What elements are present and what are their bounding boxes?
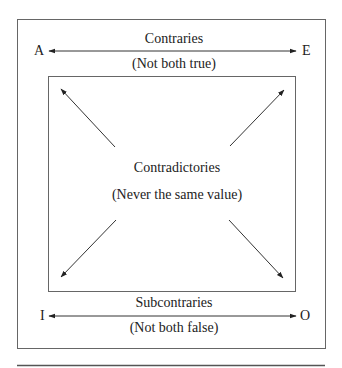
corner-label-a: A xyxy=(34,43,44,59)
arrow-to-top-right xyxy=(230,90,284,146)
inner-box xyxy=(49,77,296,292)
corner-label-o: O xyxy=(300,308,310,324)
contraries-label: Contraries xyxy=(145,31,203,47)
arrow-to-bottom-right xyxy=(229,220,283,278)
contradictories-sublabel: (Never the same value) xyxy=(112,187,242,203)
arrow-to-bottom-left xyxy=(61,220,116,277)
subcontraries-sublabel: (Not both false) xyxy=(130,320,219,336)
arrow-to-top-left xyxy=(61,89,115,147)
square-of-opposition-diagram: A E I O Contraries (Not both true) Contr… xyxy=(0,0,342,368)
contradictories-label: Contradictories xyxy=(134,160,220,176)
corner-label-e: E xyxy=(302,43,311,59)
contraries-sublabel: (Not both true) xyxy=(132,56,216,72)
corner-label-i: I xyxy=(40,308,45,324)
subcontraries-label: Subcontraries xyxy=(136,295,213,311)
